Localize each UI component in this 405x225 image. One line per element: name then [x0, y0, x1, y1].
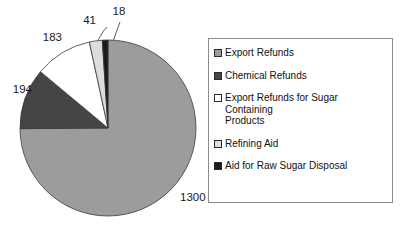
- legend-item-label: Export Refunds: [225, 47, 294, 59]
- legend-swatch-icon: [214, 140, 222, 148]
- leader-line-group: [98, 22, 120, 40]
- legend-item-label: Aid for Raw Sugar Disposal: [225, 160, 347, 172]
- legend-item[interactable]: Refining Aid: [214, 138, 387, 150]
- pie-slice-value-label: 41: [83, 14, 96, 26]
- leader-line-18: [114, 22, 121, 40]
- pie-slice-value-label: 194: [13, 83, 33, 95]
- legend-swatch-icon: [214, 49, 222, 57]
- legend-item[interactable]: Export Refunds for Sugar Containing Prod…: [214, 92, 387, 127]
- legend-item[interactable]: Export Refunds: [214, 47, 387, 59]
- legend-swatch-icon: [214, 94, 222, 102]
- leader-line-41: [98, 27, 107, 40]
- legend-swatch-icon: [214, 72, 222, 80]
- pie-slice-value-label: 18: [113, 5, 126, 17]
- legend-item-label: Export Refunds for Sugar Containing Prod…: [225, 92, 387, 127]
- pie-slice-value-label: 1300: [180, 191, 206, 203]
- legend-swatch-icon: [214, 162, 222, 170]
- legend-item-label: Chemical Refunds: [225, 70, 307, 82]
- pie-chart-figure: 13001941834118 Export RefundsChemical Re…: [0, 0, 405, 225]
- legend-item[interactable]: Chemical Refunds: [214, 70, 387, 82]
- legend-item-label: Refining Aid: [225, 138, 278, 150]
- pie-slice-group: [20, 40, 196, 216]
- legend-item[interactable]: Aid for Raw Sugar Disposal: [214, 160, 387, 172]
- chart-legend: Export RefundsChemical RefundsExport Ref…: [208, 38, 393, 203]
- pie-slice-value-label: 183: [43, 31, 62, 43]
